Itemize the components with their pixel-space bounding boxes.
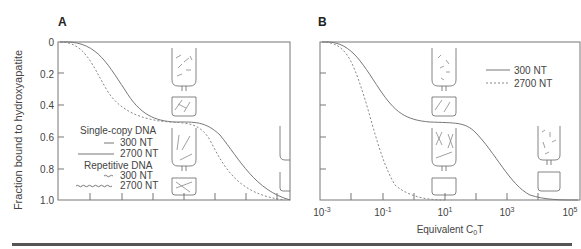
x-axis-label: Equivalent C0T xyxy=(417,224,484,236)
x-tick-1e3: 103 xyxy=(499,206,514,218)
legend-a-single-2700: 2700 NT xyxy=(120,148,158,159)
curve-a-dashed xyxy=(60,42,285,200)
bottom-rule xyxy=(12,243,572,246)
x-tick-1e-1: 10-1 xyxy=(374,206,391,218)
y-tick-0.2: 0.2 xyxy=(40,69,54,80)
y-tick-labels: 0 0.2 0.4 0.6 0.8 1.0 xyxy=(40,37,54,206)
panel-a-plot xyxy=(58,42,290,200)
legend-b-300: 300 NT xyxy=(514,65,547,76)
x-tick-1e1: 101 xyxy=(437,206,452,218)
y-tick-1.0: 1.0 xyxy=(40,195,54,206)
curve-b-dashed xyxy=(322,42,445,200)
legend-a-repetitive-2700: 2700 NT xyxy=(120,180,158,191)
curve-a-solid xyxy=(60,42,290,200)
legend-b: 300 NT 2700 NT xyxy=(486,65,552,89)
x-tick-labels-b: 10-3 10-1 101 103 105 xyxy=(313,206,577,218)
legend-b-2700: 2700 NT xyxy=(514,78,552,89)
legend-a-single-300: 300 NT xyxy=(120,137,153,148)
x-tick-1e5: 105 xyxy=(562,206,577,218)
x-tick-1e-3: 10-3 xyxy=(313,206,330,218)
y-tick-0.4: 0.4 xyxy=(40,100,54,111)
panel-a-illustrations xyxy=(172,48,290,195)
figure-canvas: A B Fraction bound to hydroxyapatite 0 0… xyxy=(0,0,581,249)
panel-b-label: B xyxy=(318,15,327,29)
y-tick-0.6: 0.6 xyxy=(40,132,54,143)
y-axis-label: Fraction bound to hydroxyapatite xyxy=(12,50,24,210)
y-tick-0: 0 xyxy=(48,37,54,48)
panel-a-label: A xyxy=(58,15,67,29)
legend-a: Single-copy DNA 300 NT 2700 NT Repetitiv… xyxy=(76,125,158,191)
legend-a-single-copy-title: Single-copy DNA xyxy=(80,125,156,136)
y-tick-0.8: 0.8 xyxy=(40,164,54,175)
